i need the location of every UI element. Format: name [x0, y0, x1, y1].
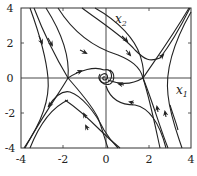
- svg-text:-4: -4: [5, 142, 16, 155]
- svg-text:0: 0: [103, 153, 110, 166]
- svg-text:2: 2: [7, 37, 14, 50]
- svg-text:-4: -4: [16, 153, 27, 166]
- phase-portrait: 4 2 0 -2 -4 -4 -2 0 2 4 x2 x1: [0, 0, 197, 176]
- svg-text:2: 2: [146, 153, 153, 166]
- svg-text:-2: -2: [5, 107, 16, 120]
- svg-text:-2: -2: [58, 153, 69, 166]
- svg-text:4: 4: [7, 2, 14, 15]
- y-tick-labels: 4 2 0 -2 -4: [5, 2, 16, 155]
- x2-axis-label: x2: [115, 12, 127, 28]
- svg-text:0: 0: [7, 72, 14, 85]
- x1-axis-label: x1: [176, 83, 188, 99]
- x-tick-labels: -4 -2 0 2 4: [16, 153, 195, 166]
- svg-text:4: 4: [188, 153, 195, 166]
